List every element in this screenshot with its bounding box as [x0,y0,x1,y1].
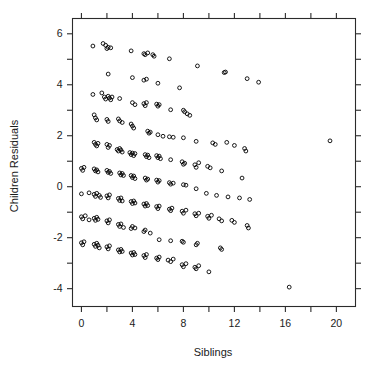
x-tick-label: 16 [280,317,292,329]
y-tick-label: -2 [53,231,62,243]
y-axis-title: Children Residuals [8,119,20,212]
x-tick-label: 8 [180,317,186,329]
plot-canvas: 0481216206420-2-4 Siblings Children Resi… [0,0,372,373]
y-tick-label: 4 [57,78,63,90]
x-axis-title: Siblings [194,346,233,358]
y-tick-label: 0 [57,180,63,192]
x-tick-label: 4 [129,317,135,329]
scatter-plot-figure: 0481216206420-2-4 Siblings Children Resi… [0,0,372,373]
x-tick-label: 20 [331,317,343,329]
y-tick-label: 2 [57,129,63,141]
x-tick-label: 0 [79,317,85,329]
x-tick-label: 12 [229,317,241,329]
y-tick-label: 6 [57,27,63,39]
y-tick-label: -4 [53,282,62,294]
